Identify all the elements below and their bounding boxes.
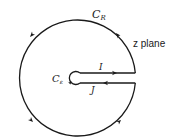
outer-circle-path	[20, 20, 136, 136]
arrow-inner-icon	[68, 81, 72, 85]
segment-i-label: I	[98, 62, 103, 72]
outer-circle-label: CR	[92, 8, 106, 22]
arrow-lower-left-icon	[28, 117, 33, 122]
keyhole-contour-diagram: CR z plane Cε I J	[0, 0, 175, 140]
plane-label: z plane	[133, 38, 166, 49]
arrow-upper-left-icon	[30, 32, 35, 38]
segment-j-label: J	[89, 85, 96, 95]
arrow-icons	[28, 32, 121, 125]
inner-circle-label: Cε	[52, 73, 63, 85]
